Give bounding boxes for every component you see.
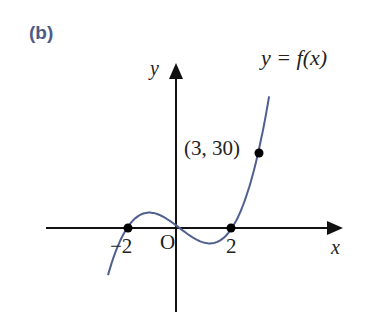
- graph-figure: (b) y x O −2 2 (3, 30) y = f(x): [0, 0, 381, 318]
- point-label: (3, 30): [184, 136, 240, 161]
- panel-label: (b): [29, 22, 53, 44]
- function-label: y = f(x): [261, 45, 327, 71]
- root-point-pos2: [227, 224, 236, 233]
- root-point-neg2: [124, 224, 133, 233]
- tick-label-neg2: −2: [110, 234, 132, 259]
- y-axis-label: y: [150, 57, 159, 80]
- y-axis-arrow-icon: [169, 63, 183, 79]
- marked-point-3-30: [255, 149, 264, 158]
- x-axis-label: x: [331, 236, 340, 259]
- origin-label: O: [160, 230, 175, 255]
- tick-label-pos2: 2: [226, 234, 237, 259]
- x-axis-arrow-icon: [327, 221, 343, 235]
